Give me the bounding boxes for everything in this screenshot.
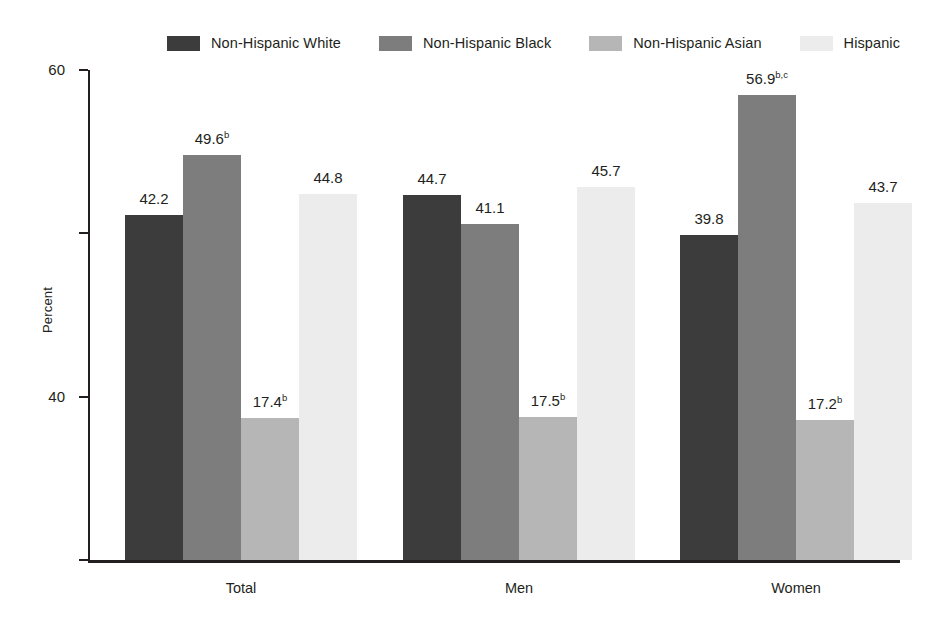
legend-item-label: Non-Hispanic White: [211, 35, 341, 51]
legend-swatch-icon: [589, 36, 622, 51]
legend-item-label: Non-Hispanic Asian: [633, 35, 761, 51]
legend-item-label: Non-Hispanic Black: [423, 35, 551, 51]
x-axis-category-label: Total: [226, 580, 257, 596]
bar-chart: Non-Hispanic WhiteNon-Hispanic BlackNon-…: [0, 0, 948, 619]
x-axis-category-label: Women: [771, 580, 821, 596]
bar-column[interactable]: 42.2: [125, 70, 183, 560]
bar-value-label: 56.9b,c: [746, 71, 788, 86]
bar[interactable]: [299, 194, 357, 560]
legend-swatch-icon: [167, 36, 200, 51]
legend-item[interactable]: Non-Hispanic White: [167, 35, 341, 51]
y-axis-title: Percent: [40, 286, 55, 332]
bar[interactable]: [680, 235, 738, 560]
chart-legend: Non-Hispanic WhiteNon-Hispanic BlackNon-…: [0, 30, 948, 56]
bar-column[interactable]: 56.9b,c: [738, 70, 796, 560]
bar-value-footnote: b,c: [775, 69, 788, 80]
bar-value-label: 44.8: [313, 170, 342, 185]
y-axis-tick-label: 60: [48, 61, 65, 78]
bar-column[interactable]: 49.6b: [183, 70, 241, 560]
legend-item[interactable]: Non-Hispanic Asian: [589, 35, 761, 51]
bar-column[interactable]: 17.2b: [796, 70, 854, 560]
bar-value-label: 49.6b: [195, 131, 230, 146]
bar[interactable]: [241, 418, 299, 560]
bar-column[interactable]: 41.1: [461, 70, 519, 560]
legend-item[interactable]: Hispanic: [800, 35, 900, 51]
bar-value-footnote: b: [837, 394, 842, 405]
bar-value-label: 44.7: [417, 171, 446, 186]
bar-value-label: 39.8: [694, 211, 723, 226]
bar-column[interactable]: 39.8: [680, 70, 738, 560]
y-axis-tick: 0: [79, 559, 88, 561]
bar-value-label: 45.7: [591, 163, 620, 178]
bar[interactable]: [519, 417, 577, 560]
bar[interactable]: [183, 155, 241, 560]
bar[interactable]: [403, 195, 461, 560]
legend-swatch-icon: [800, 36, 833, 51]
bar-column[interactable]: 17.5b: [519, 70, 577, 560]
y-axis-tick: 20: [79, 396, 88, 398]
bar-value-footnote: b: [224, 129, 229, 140]
bar-column[interactable]: 17.4b: [241, 70, 299, 560]
bar-value-label: 17.5b: [531, 393, 566, 408]
bar-value-label: 17.2b: [808, 396, 843, 411]
plot-area: 0204060 42.249.6b17.4b44.844.741.117.5b4…: [88, 70, 900, 560]
bar-value-label: 42.2: [139, 191, 168, 206]
y-axis-tick: 60: [79, 69, 88, 71]
legend-item-label: Hispanic: [844, 35, 900, 51]
x-axis-category-label: Men: [505, 580, 533, 596]
bar-column[interactable]: 45.7: [577, 70, 635, 560]
bar[interactable]: [461, 224, 519, 560]
bar-column[interactable]: 43.7: [854, 70, 912, 560]
bar[interactable]: [854, 203, 912, 560]
bar[interactable]: [738, 95, 796, 560]
legend-swatch-icon: [379, 36, 412, 51]
bar-value-label: 43.7: [868, 179, 897, 194]
y-axis-tick: 40: [79, 232, 88, 234]
bar[interactable]: [577, 187, 635, 560]
legend-item[interactable]: Non-Hispanic Black: [379, 35, 551, 51]
bar-value-footnote: b: [560, 391, 565, 402]
bar-column[interactable]: 44.8: [299, 70, 357, 560]
bar-value-label: 41.1: [475, 200, 504, 215]
y-axis-tick-label: 40: [48, 387, 65, 404]
x-axis-line: [88, 560, 900, 563]
bar-value-label: 17.4b: [253, 394, 288, 409]
bar[interactable]: [125, 215, 183, 560]
bar-column[interactable]: 44.7: [403, 70, 461, 560]
bar[interactable]: [796, 420, 854, 560]
y-axis-line: [88, 70, 90, 560]
bar-value-footnote: b: [282, 392, 287, 403]
